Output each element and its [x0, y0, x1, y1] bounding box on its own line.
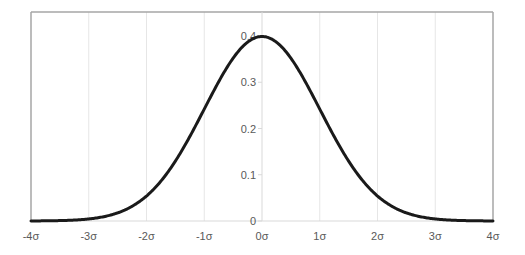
- y-tick-label: 0.3: [241, 76, 256, 88]
- x-tick-label: 3σ: [429, 230, 442, 242]
- normal-distribution-chart: -4σ-3σ-2σ-1σ0σ1σ2σ3σ4σ 00.10.20.30.4: [0, 0, 525, 255]
- y-tick-label: 0.2: [241, 123, 256, 135]
- x-tick-label: 2σ: [371, 230, 384, 242]
- x-axis-labels: -4σ-3σ-2σ-1σ0σ1σ2σ3σ4σ: [23, 230, 500, 242]
- y-tick-label: 0.1: [241, 169, 256, 181]
- x-tick-label: -1σ: [196, 230, 213, 242]
- x-tick-label: 1σ: [313, 230, 326, 242]
- x-tick-label: 4σ: [487, 230, 500, 242]
- x-tick-label: -3σ: [80, 230, 97, 242]
- x-tick-label: -2σ: [138, 230, 155, 242]
- y-tick-label: 0: [250, 215, 256, 227]
- x-tick-label: 0σ: [256, 230, 269, 242]
- x-tick-label: -4σ: [23, 230, 40, 242]
